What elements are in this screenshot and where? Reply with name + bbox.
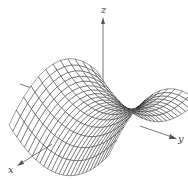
x-axis-label: x <box>8 165 14 175</box>
saddle-surface-figure <box>0 0 188 184</box>
z-axis-arrowhead <box>101 17 105 24</box>
y-axis-arrowhead <box>169 134 177 139</box>
x-axis-arrowhead <box>17 160 24 166</box>
y-axis <box>140 126 172 137</box>
z-axis-label: z <box>101 5 106 15</box>
y-axis-label: y <box>178 134 184 144</box>
saddle-mesh <box>9 59 188 176</box>
